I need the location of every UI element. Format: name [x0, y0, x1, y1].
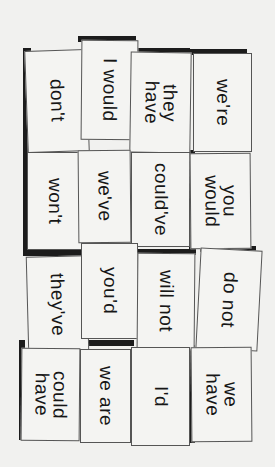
contraction-card[interactable]: they have [129, 52, 191, 154]
card-label: we're [213, 79, 231, 126]
contraction-card[interactable]: we're [193, 53, 252, 152]
card-label: do not [219, 271, 240, 328]
card-label: you'd [100, 267, 118, 314]
contraction-card[interactable]: you'd [81, 243, 138, 339]
flashcard-scene: don'tI wouldthey havewe'rewon'twe'vecoul… [0, 0, 275, 467]
contraction-card[interactable]: I'd [131, 347, 190, 446]
contraction-card[interactable]: could've [131, 152, 190, 247]
contraction-card[interactable]: we are [80, 349, 131, 443]
card-label: don't [47, 79, 67, 123]
contraction-card[interactable]: could have [21, 348, 81, 442]
card-label: we've [95, 171, 113, 222]
card-label: could've [151, 163, 169, 236]
card-label: won't [46, 178, 64, 224]
card-label: we are [96, 366, 114, 426]
contraction-card[interactable]: won't [27, 152, 83, 250]
card-label: will not [157, 270, 176, 332]
contraction-card[interactable]: we've [78, 150, 132, 243]
card-label: we have [203, 373, 239, 417]
card-label: they have [142, 81, 179, 125]
card-shadow [82, 340, 134, 346]
card-label: they've [48, 273, 68, 337]
contraction-card[interactable]: they've [26, 255, 90, 354]
contraction-card[interactable]: we have [191, 347, 253, 443]
card-label: you would [202, 175, 239, 227]
contraction-card[interactable]: you would [190, 153, 252, 250]
card-label: I'd [151, 386, 169, 407]
card-label: could have [32, 370, 69, 418]
contraction-card[interactable]: will not [137, 253, 196, 351]
contraction-card[interactable]: do not [195, 247, 262, 351]
card-label: I would [100, 58, 119, 122]
